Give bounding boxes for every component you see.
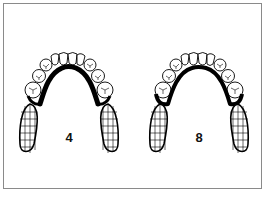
figure-8: 8 (134, 4, 264, 190)
figure-label: 8 (134, 130, 264, 145)
figure-label: 4 (4, 130, 134, 145)
diagram-frame: 4 (3, 3, 262, 189)
denture-framework-drawing (134, 4, 264, 190)
denture-framework-drawing (4, 4, 134, 190)
figure-4: 4 (4, 4, 134, 190)
